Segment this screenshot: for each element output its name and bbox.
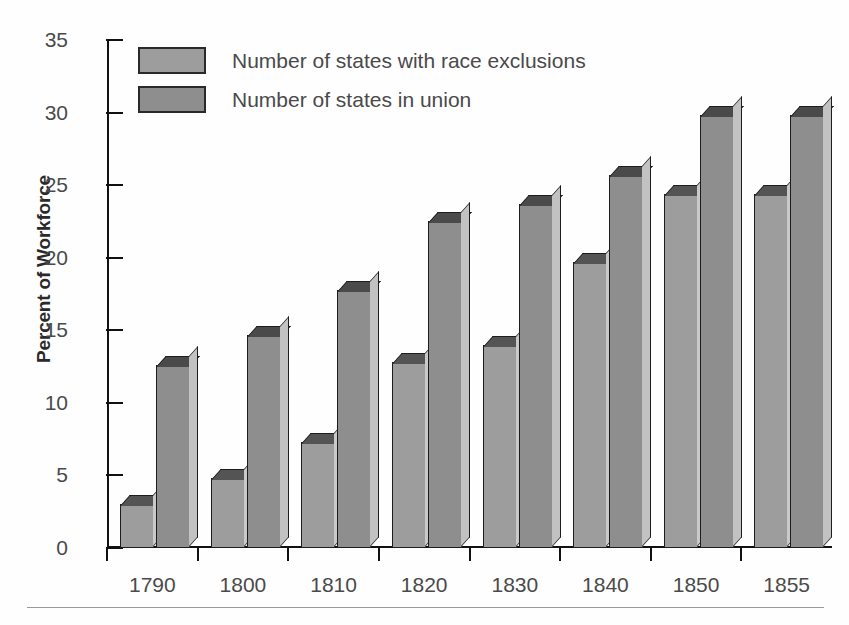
- y-axis-title: Percent of Workforce: [33, 129, 55, 409]
- bar-1820-series1: [428, 221, 462, 548]
- bar-1850-series1: [700, 115, 734, 548]
- y-tick-15: [106, 329, 123, 331]
- y-tick-20: [106, 257, 123, 259]
- bar-1855-series0: [754, 194, 788, 548]
- bar-1810-series0: [301, 442, 335, 548]
- y-tick-label-5: 5: [22, 464, 68, 485]
- x-tick-1800: [197, 548, 199, 561]
- bar-side-face: [642, 156, 651, 547]
- x-tick-1855: [740, 548, 742, 561]
- bar-1840-series0: [573, 262, 607, 548]
- bar-1810-series1: [337, 290, 371, 548]
- legend-swatch-race-exclusions: [138, 47, 206, 74]
- y-tick-25: [106, 184, 123, 186]
- y-tick-35: [106, 39, 123, 41]
- bottom-divider: [27, 607, 824, 608]
- x-tick-label-1810: 1810: [289, 574, 379, 595]
- bar-side-face: [733, 96, 742, 547]
- x-tick-label-1790: 1790: [107, 574, 197, 595]
- legend-label-states-in-union: Number of states in union: [232, 89, 471, 110]
- x-tick-1840: [559, 548, 561, 561]
- bar-side-face: [189, 346, 198, 547]
- y-tick-label-35: 35: [22, 29, 68, 50]
- x-tick-label-1830: 1830: [470, 574, 560, 595]
- y-tick-label-10: 10: [22, 392, 68, 413]
- y-tick-label-15: 15: [22, 319, 68, 340]
- y-axis-line: [107, 40, 109, 548]
- x-tick-1790: [106, 548, 108, 561]
- bar-1820-series0: [392, 362, 426, 548]
- bar-chart-figure: Percent of Workforce 05101520253035 1790…: [0, 0, 849, 625]
- x-tick-1810: [287, 548, 289, 561]
- y-tick-label-0: 0: [22, 537, 68, 558]
- y-tick-30: [106, 112, 123, 114]
- x-tick-1820: [378, 548, 380, 561]
- x-tick-label-1840: 1840: [560, 574, 650, 595]
- bar-side-face: [552, 185, 561, 547]
- legend-item-states-in-union: Number of states in union: [138, 80, 586, 119]
- bar-1850-series0: [664, 194, 698, 548]
- y-tick-5: [106, 474, 123, 476]
- bar-side-face: [280, 316, 289, 547]
- y-tick-label-30: 30: [22, 102, 68, 123]
- bar-side-face: [461, 202, 470, 547]
- bar-1830-series0: [483, 345, 517, 548]
- x-tick-label-1820: 1820: [379, 574, 469, 595]
- legend-label-race-exclusions: Number of states with race exclusions: [232, 50, 586, 71]
- legend-item-race-exclusions: Number of states with race exclusions: [138, 41, 586, 80]
- legend-swatch-states-in-union: [138, 86, 206, 113]
- bar-1800-series0: [211, 478, 245, 548]
- bar-1800-series1: [247, 335, 281, 548]
- bar-1790-series0: [120, 504, 154, 548]
- bar-1855-series1: [790, 115, 824, 548]
- bar-side-face: [823, 96, 832, 547]
- bar-1830-series1: [519, 204, 553, 548]
- chart-legend: Number of states with race exclusions Nu…: [138, 41, 586, 119]
- y-tick-10: [106, 402, 123, 404]
- y-tick-label-20: 20: [22, 247, 68, 268]
- x-tick-label-1855: 1855: [742, 574, 832, 595]
- x-tick-label-1850: 1850: [651, 574, 741, 595]
- x-tick-label-1800: 1800: [198, 574, 288, 595]
- bar-1840-series1: [609, 175, 643, 548]
- x-tick-1830: [469, 548, 471, 561]
- x-tick-1850: [650, 548, 652, 561]
- bar-1790-series1: [156, 365, 190, 548]
- y-tick-label-25: 25: [22, 174, 68, 195]
- bar-side-face: [370, 271, 379, 547]
